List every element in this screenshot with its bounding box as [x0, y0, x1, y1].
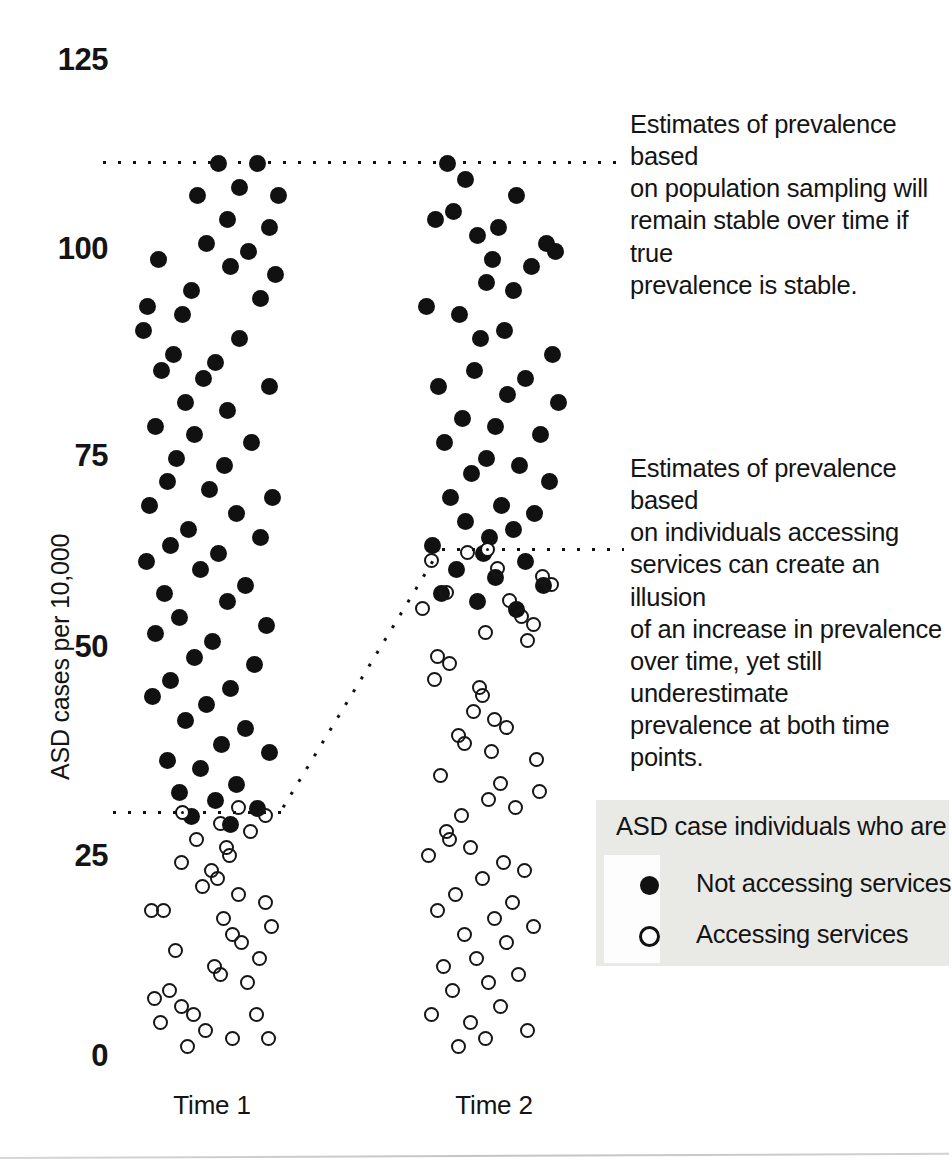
- data-point-filled: [511, 457, 528, 474]
- data-point-filled: [216, 457, 233, 474]
- data-point-filled: [252, 290, 269, 307]
- legend-title: ASD case individuals who are: [616, 812, 946, 841]
- data-point-filled: [544, 346, 561, 363]
- data-point-filled: [541, 473, 558, 490]
- data-point-filled: [213, 736, 230, 753]
- data-point-filled: [261, 744, 278, 761]
- data-point-open: [478, 625, 493, 640]
- data-point-filled: [457, 513, 474, 530]
- data-point-open: [210, 871, 225, 886]
- legend-label-not-accessing: Not accessing services: [696, 869, 951, 898]
- data-point-filled: [436, 434, 453, 451]
- data-point-filled: [219, 402, 236, 419]
- data-point-filled: [231, 330, 248, 347]
- data-point-open: [505, 895, 520, 910]
- data-point-open: [454, 808, 469, 823]
- data-point-filled: [457, 171, 474, 188]
- data-point-open: [427, 672, 442, 687]
- data-point-filled: [252, 529, 269, 546]
- data-point-filled: [201, 481, 218, 498]
- data-point-filled: [469, 227, 486, 244]
- data-point-open: [258, 895, 273, 910]
- data-point-filled: [496, 322, 513, 339]
- data-point-filled: [204, 633, 221, 650]
- data-point-filled: [165, 346, 182, 363]
- data-point-filled: [454, 410, 471, 427]
- data-point-filled: [469, 593, 486, 610]
- data-point-filled: [228, 505, 245, 522]
- data-point-open: [445, 983, 460, 998]
- data-point-filled: [237, 720, 254, 737]
- data-point-open: [252, 951, 267, 966]
- data-point-open: [264, 919, 279, 934]
- data-point-open: [508, 800, 523, 815]
- data-point-filled: [147, 418, 164, 435]
- annotation-line: prevalence at both time points.: [630, 709, 952, 773]
- data-point-filled: [186, 426, 203, 443]
- data-point-filled: [430, 378, 447, 395]
- data-point-filled: [153, 362, 170, 379]
- data-point-open: [243, 824, 258, 839]
- data-point-open: [481, 975, 496, 990]
- data-point-filled: [198, 235, 215, 252]
- data-point-open: [529, 752, 544, 767]
- data-point-open: [481, 792, 496, 807]
- data-point-filled: [237, 577, 254, 594]
- data-point-open: [463, 1015, 478, 1030]
- data-point-open: [532, 784, 547, 799]
- data-point-filled: [267, 266, 284, 283]
- data-point-filled: [150, 251, 167, 268]
- data-point-filled: [517, 370, 534, 387]
- data-point-open: [526, 617, 541, 632]
- data-point-open: [174, 855, 189, 870]
- y-tick-100: 100: [48, 233, 108, 264]
- data-point-open: [424, 1007, 439, 1022]
- data-point-filled: [418, 298, 435, 315]
- data-point-open: [526, 919, 541, 934]
- data-point-filled: [478, 450, 495, 467]
- data-point-open: [198, 1023, 213, 1038]
- annotation-line: on individuals accessing: [630, 516, 952, 548]
- data-point-open: [442, 656, 457, 671]
- data-point-filled: [523, 258, 540, 275]
- data-point-filled: [478, 274, 495, 291]
- data-point-open: [475, 871, 490, 886]
- data-point-open: [484, 744, 499, 759]
- data-point-filled: [231, 179, 248, 196]
- data-point-filled: [442, 489, 459, 506]
- data-point-open: [147, 991, 162, 1006]
- data-point-filled: [192, 760, 209, 777]
- data-point-filled: [448, 561, 465, 578]
- data-point-filled: [177, 394, 194, 411]
- data-point-filled: [466, 362, 483, 379]
- data-point-open: [439, 585, 454, 600]
- data-point-open: [496, 855, 511, 870]
- data-point-filled: [159, 473, 176, 490]
- data-point-filled: [505, 521, 522, 538]
- annotation-line: Estimates of prevalence based: [630, 452, 952, 516]
- data-point-open: [478, 1031, 493, 1046]
- annotation-line: of an increase in prevalence: [630, 613, 952, 645]
- data-point-filled: [174, 306, 191, 323]
- data-point-filled: [135, 322, 152, 339]
- data-point-open: [520, 633, 535, 648]
- annotation-line: prevalence is stable.: [630, 269, 945, 301]
- data-point-filled: [222, 680, 239, 697]
- data-point-open: [186, 1007, 201, 1022]
- data-point-filled: [427, 211, 444, 228]
- data-point-filled: [487, 418, 504, 435]
- data-point-filled: [162, 672, 179, 689]
- data-point-open: [544, 577, 559, 592]
- annotation-service-access: Estimates of prevalence based on individ…: [630, 452, 952, 773]
- annotation-line: Estimates of prevalence based: [630, 108, 945, 172]
- data-point-filled: [192, 561, 209, 578]
- data-point-filled: [186, 649, 203, 666]
- data-point-filled: [258, 617, 275, 634]
- data-point-filled: [141, 497, 158, 514]
- data-point-filled: [219, 211, 236, 228]
- data-point-open: [195, 879, 210, 894]
- data-point-filled: [493, 497, 510, 514]
- annotation-line: on population sampling will: [630, 172, 945, 204]
- data-point-filled: [463, 465, 480, 482]
- x-tick-time-2: Time 2: [414, 1090, 574, 1121]
